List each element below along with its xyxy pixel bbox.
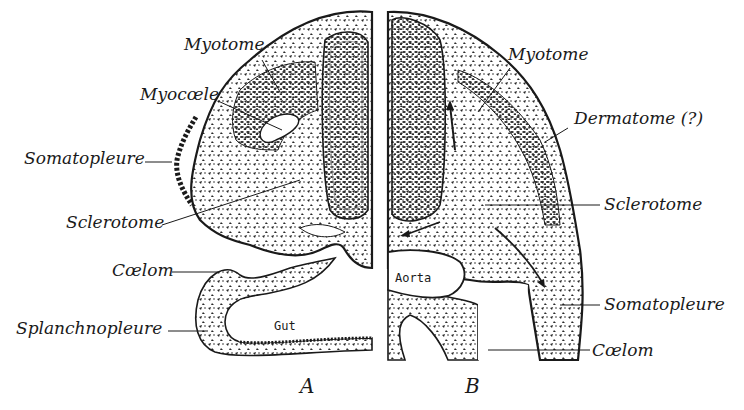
label-a-myotome: Myotome <box>184 36 265 53</box>
panel-label-b: B <box>465 376 480 396</box>
label-b-coelom: Cœlom <box>592 342 654 359</box>
panel-a-neural-tube <box>322 32 368 219</box>
label-b-dermatome: Dermatome (?) <box>574 110 703 127</box>
label-b-sclerotome: Sclerotome <box>604 196 702 213</box>
label-a-gut: Gut <box>274 320 296 332</box>
panel-a-drawing <box>177 11 372 355</box>
label-a-coelom: Cœlom <box>112 262 174 279</box>
label-b-aorta: Aorta <box>395 272 431 284</box>
label-b-myotome: Myotome <box>508 46 589 63</box>
label-a-sclerotome: Sclerotome <box>66 214 164 231</box>
label-a-somatopleure: Somatopleure <box>24 150 145 167</box>
panel-b-drawing <box>388 12 583 360</box>
embryo-section-figure: Myotome Myocœle Somatopleure Sclerotome … <box>0 0 744 410</box>
label-a-myocoele: Myocœle <box>140 86 219 103</box>
panel-b-coelom <box>478 283 528 360</box>
panel-label-a: A <box>300 376 314 396</box>
label-b-somatopleure: Somatopleure <box>604 296 725 313</box>
panel-b-neural-tube <box>392 18 445 221</box>
label-a-splanchnopleure: Splanchnopleure <box>16 320 162 337</box>
panel-b-lower-arm <box>388 288 478 360</box>
